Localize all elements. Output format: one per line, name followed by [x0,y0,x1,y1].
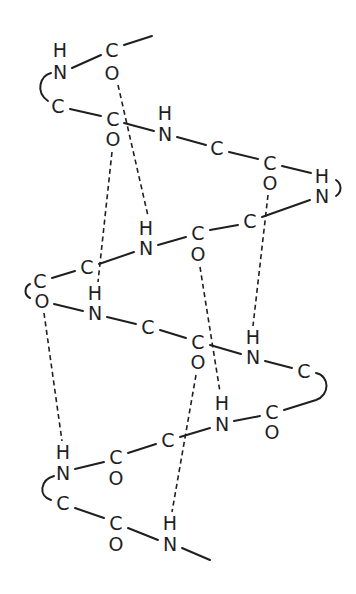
atom-c: C [263,152,276,174]
atom-c: C [80,256,93,278]
atom-h: H [158,102,172,124]
atom-n: N [163,533,177,555]
atom-h: H [53,39,67,61]
atom-o: O [191,243,206,265]
atom-c: C [51,95,64,117]
atom-h: H [215,392,229,414]
atom-c: C [191,222,204,244]
atom-c: C [161,429,174,451]
atom-o: O [105,62,120,84]
atom-c: C [33,270,46,292]
atom-h: H [163,512,177,534]
backbone-bonds [26,36,341,560]
hydrogen-bonds [44,85,268,512]
atom-c: C [105,39,118,61]
atom-h: H [139,217,153,239]
atom-h: H [246,326,260,348]
atom-n: N [158,123,172,145]
atom-o: O [106,128,121,150]
atom-h: H [315,165,329,187]
atom-c: C [109,512,122,534]
atom-n: N [53,61,67,83]
atom-n: N [246,346,260,368]
atom-o: O [109,533,124,555]
atom-o: O [109,467,124,489]
atom-o: O [35,290,50,312]
atom-c: C [106,108,119,130]
atom-n: N [56,462,70,484]
atom-n: N [315,185,329,207]
atom-c: C [297,360,310,382]
atom-h: H [56,441,70,463]
atom-h: H [88,282,102,304]
atom-c: C [210,137,223,159]
atom-c: C [141,316,154,338]
atom-n: N [88,302,102,324]
atom-o: O [263,172,278,194]
atom-n: N [139,237,153,259]
alpha-helix-diagram: H N C O C C O H N C C O H N C C O H N C … [0,0,356,594]
atom-c: C [109,446,122,468]
atom-o: O [265,421,280,443]
atom-c: C [191,331,204,353]
atom-c: C [56,492,69,514]
atom-o: O [191,351,206,373]
atom-c: C [243,210,256,232]
atom-n: N [215,413,229,435]
atom-labels: H N C O C C O H N C C O H N C C O H N C … [33,39,329,555]
atom-c: C [265,401,278,423]
